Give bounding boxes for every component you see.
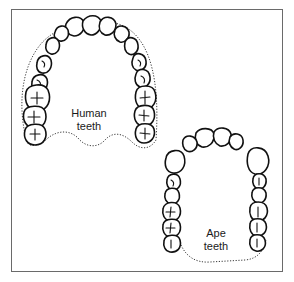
ape-label-line1: Ape bbox=[186, 227, 246, 240]
human-label-line2: teeth bbox=[59, 120, 119, 133]
human-teeth-label: Human teeth bbox=[59, 107, 119, 133]
human-canine bbox=[125, 38, 138, 55]
ape-molar bbox=[164, 235, 181, 252]
ape-molar bbox=[250, 235, 266, 251]
ape-incisor bbox=[213, 128, 231, 146]
human-premolar bbox=[37, 56, 52, 73]
ape-canine bbox=[165, 151, 185, 174]
human-canine bbox=[46, 38, 60, 54]
ape-premolar bbox=[252, 188, 266, 203]
ape-molar bbox=[250, 219, 267, 236]
dental-arch-diagram bbox=[0, 0, 294, 282]
human-incisor bbox=[99, 17, 116, 35]
ape-teeth-label: Ape teeth bbox=[186, 227, 246, 253]
ape-label-line2: teeth bbox=[186, 240, 246, 253]
human-premolar bbox=[135, 69, 150, 87]
ape-incisor bbox=[195, 129, 214, 148]
ape-canine bbox=[247, 148, 268, 174]
human-label-line1: Human bbox=[59, 107, 119, 120]
human-premolar bbox=[132, 54, 146, 71]
ape-incisor bbox=[229, 134, 243, 150]
ape-incisor bbox=[183, 136, 197, 151]
human-incisor bbox=[82, 16, 101, 35]
